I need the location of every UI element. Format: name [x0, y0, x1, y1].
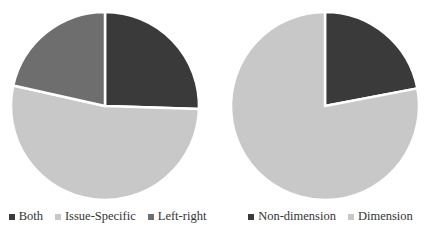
right-pie-chart: Non-dimension Dimension [215, 0, 430, 236]
legend-swatch-issue-specific [55, 214, 61, 220]
left-pie [0, 0, 215, 205]
legend-label-both: Both [19, 209, 43, 224]
legend-swatch-non-dimension [248, 214, 254, 220]
legend-label-left-right: Left-right [158, 209, 207, 224]
legend-swatch-left-right [148, 214, 154, 220]
legend-label-issue-specific: Issue-Specific [65, 209, 136, 224]
legend-item-dimension: Dimension [348, 209, 413, 224]
legend-label-dimension: Dimension [358, 209, 413, 224]
right-legend: Non-dimension Dimension [223, 209, 430, 224]
legend-swatch-both [9, 214, 15, 220]
legend-label-non-dimension: Non-dimension [258, 209, 336, 224]
legend-item-both: Both [9, 209, 43, 224]
left-legend: Both Issue-Specific Left-right [0, 209, 215, 224]
legend-item-issue-specific: Issue-Specific [55, 209, 136, 224]
pie-slice-both [105, 12, 199, 109]
legend-swatch-dimension [348, 214, 354, 220]
legend-item-non-dimension: Non-dimension [248, 209, 336, 224]
left-pie-chart: Both Issue-Specific Left-right [0, 0, 215, 236]
legend-item-left-right: Left-right [148, 209, 207, 224]
right-pie [215, 0, 430, 205]
